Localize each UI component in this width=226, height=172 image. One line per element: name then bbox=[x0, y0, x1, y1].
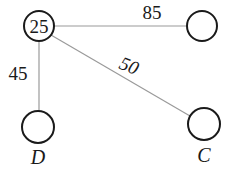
node-25: 25 bbox=[24, 11, 54, 41]
edge-25-to-c bbox=[51, 35, 190, 116]
node-circle bbox=[187, 11, 217, 41]
graph-diagram: 85 45 50 25 D C bbox=[0, 0, 226, 172]
node-c: C bbox=[188, 108, 220, 166]
node-circle bbox=[188, 108, 220, 140]
node-label-d: D bbox=[30, 146, 46, 168]
node-label-c: C bbox=[197, 144, 211, 166]
node-d: D bbox=[22, 111, 54, 168]
node-top-right bbox=[187, 11, 217, 41]
edge-weight-85: 85 bbox=[143, 2, 162, 23]
edge-weight-45: 45 bbox=[9, 63, 28, 84]
node-circle bbox=[22, 111, 54, 143]
node-value: 25 bbox=[30, 16, 49, 37]
